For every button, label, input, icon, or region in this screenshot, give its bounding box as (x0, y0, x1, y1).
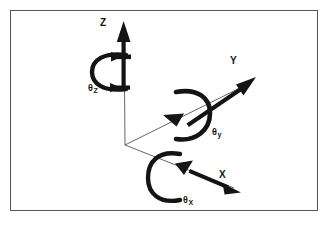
axis-label-z: Z (100, 18, 106, 28)
axis-label-x: X (219, 170, 226, 180)
y-axis-arrow (187, 77, 257, 127)
rotation-label-theta-z: θZ (88, 84, 98, 94)
figure-root: Z Y X θZ θy θX (0, 0, 329, 225)
rotation-label-theta-y: θy (212, 128, 221, 138)
rotation-label-theta-x: θX (183, 196, 193, 206)
axes-diagram (0, 0, 329, 225)
theta-y-subscript: y (217, 131, 221, 138)
theta-z-loop-tips (110, 52, 131, 92)
x-axis-arrow (189, 169, 241, 195)
theta-z-subscript: Z (93, 87, 97, 94)
theta-x-subscript: X (188, 199, 193, 206)
axis-label-y: Y (230, 56, 237, 66)
